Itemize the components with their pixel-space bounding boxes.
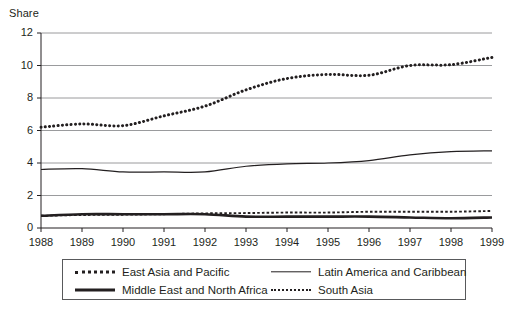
- data-series-group: [41, 57, 492, 218]
- chart-figure: Share 024681012 198819891990199119921993…: [0, 0, 527, 310]
- x-tick-label: 1999: [472, 236, 512, 248]
- x-tick-label: 1997: [390, 236, 430, 248]
- y-tick-label: 4: [0, 156, 33, 168]
- series-line: [41, 151, 492, 173]
- legend-label: South Asia: [318, 284, 373, 296]
- y-tick-label: 6: [0, 124, 33, 136]
- x-tick-label: 1993: [226, 236, 266, 248]
- x-tick-label: 1998: [431, 236, 471, 248]
- chart-plot-area: [0, 0, 527, 258]
- legend-label: East Asia and Pacific: [122, 266, 229, 278]
- x-tick-label: 1996: [349, 236, 389, 248]
- legend-swatch-dotted-thin-icon: [271, 285, 311, 295]
- y-tick-label: 12: [0, 26, 33, 38]
- series-line: [41, 57, 492, 127]
- legend-item-east-asia-and-pacific[interactable]: East Asia and Pacific: [75, 262, 229, 282]
- legend-swatch-solid-thick-icon: [75, 285, 115, 295]
- y-tick-label: 10: [0, 59, 33, 71]
- x-tick-label: 1991: [144, 236, 184, 248]
- y-tick-label: 0: [0, 221, 33, 233]
- legend-label: Middle East and North Africa: [122, 284, 268, 296]
- gridlines-group: [41, 33, 492, 228]
- x-tick-label: 1995: [308, 236, 348, 248]
- x-tick-marks-group: [41, 228, 492, 232]
- x-tick-label: 1994: [267, 236, 307, 248]
- y-tick-label: 8: [0, 91, 33, 103]
- legend-label: Latin America and Caribbean: [318, 266, 466, 278]
- legend-item-middle-east-and-north-africa[interactable]: Middle East and North Africa: [75, 280, 268, 300]
- legend-swatch-dotted-thick-icon: [75, 267, 115, 277]
- y-tick-marks-group: [37, 33, 41, 228]
- legend-swatch-solid-thin-icon: [271, 267, 311, 277]
- legend-row-2: Middle East and North Africa South Asia: [63, 280, 465, 300]
- x-tick-label: 1990: [103, 236, 143, 248]
- chart-legend: East Asia and Pacific Latin America and …: [62, 259, 466, 300]
- x-tick-label: 1992: [185, 236, 225, 248]
- legend-item-latin-america-and-caribbean[interactable]: Latin America and Caribbean: [271, 262, 466, 282]
- y-tick-label: 2: [0, 189, 33, 201]
- legend-row-1: East Asia and Pacific Latin America and …: [63, 262, 465, 282]
- x-tick-label: 1989: [62, 236, 102, 248]
- legend-item-south-asia[interactable]: South Asia: [271, 280, 373, 300]
- x-tick-label: 1988: [21, 236, 61, 248]
